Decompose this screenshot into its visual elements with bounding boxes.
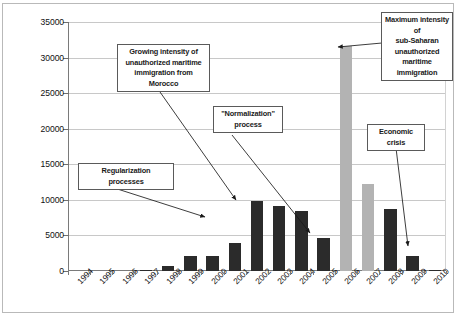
xtick-mark-2008	[379, 271, 380, 275]
callout-line: sub-Saharan	[385, 36, 449, 47]
callout-line: maritime immigration	[385, 57, 449, 78]
callout-max-intensity: Maximum intensity of sub-Saharan unautho…	[381, 12, 453, 81]
xtick-mark-1996	[112, 271, 113, 275]
callout-normalization-process: "Normalization" process	[213, 106, 283, 133]
bar-2003	[273, 206, 285, 271]
xtick-mark-2003	[268, 271, 269, 275]
callout-line: crisis	[371, 138, 421, 149]
xtick-mark-1994	[68, 271, 69, 275]
callout-line: processes	[82, 177, 170, 188]
xtick-mark-1999	[179, 271, 180, 275]
ytick-label-5000: 5000	[45, 230, 64, 240]
xtick-mark-2009	[402, 271, 403, 275]
xtick-mark-2010	[424, 271, 425, 275]
xtick-mark-2002	[246, 271, 247, 275]
ytick-label-25000: 25000	[41, 88, 64, 98]
bar-2007	[362, 184, 374, 271]
ytick-label-30000: 30000	[41, 53, 64, 63]
ytick-label-35000: 35000	[41, 17, 64, 27]
ytick-label-0: 0	[59, 266, 64, 276]
bar-2009	[406, 256, 418, 271]
bar-2008	[384, 209, 396, 271]
bar-2006	[340, 46, 352, 271]
callout-line: Maximum intensity of	[385, 15, 449, 36]
bar-2002	[251, 201, 263, 271]
xtick-mark-2001	[224, 271, 225, 275]
xtick-mark-2006	[335, 271, 336, 275]
bar-2000	[206, 256, 218, 271]
immigration-bar-chart: 35000 30000 25000 20000 15000 10000 5000…	[0, 0, 458, 316]
ytick-label-20000: 20000	[41, 124, 64, 134]
callout-line: Growing intensity of	[121, 47, 206, 58]
bar-2005	[317, 238, 329, 271]
xtick-mark-1997	[135, 271, 136, 275]
callout-economic-crisis: Economic crisis	[367, 124, 425, 151]
callout-morocco-intensity: Growing intensity of unauthorized mariti…	[117, 44, 210, 92]
callout-line: "Normalization"	[217, 109, 279, 120]
xtick-mark-2005	[313, 271, 314, 275]
ytick-label-15000: 15000	[41, 159, 64, 169]
callout-line: unauthorized	[385, 47, 449, 58]
xtick-mark-2007	[357, 271, 358, 275]
callout-line: unauthorized maritime	[121, 58, 206, 69]
callout-line: immigration from	[121, 68, 206, 79]
callout-regularization-processes: Regularization processes	[78, 163, 174, 190]
callout-line: Economic	[371, 127, 421, 138]
xtick-mark-1998	[157, 271, 158, 275]
ytick-label-10000: 10000	[41, 195, 64, 205]
xtick-mark-end	[446, 271, 447, 275]
xtick-mark-2000	[201, 271, 202, 275]
xtick-mark-2004	[290, 271, 291, 275]
xtick-mark-1995	[90, 271, 91, 275]
callout-line: Regularization	[82, 166, 170, 177]
bar-2001	[229, 243, 241, 271]
bar-2004	[295, 211, 307, 271]
callout-line: Morocco	[121, 79, 206, 90]
callout-line: process	[217, 120, 279, 131]
